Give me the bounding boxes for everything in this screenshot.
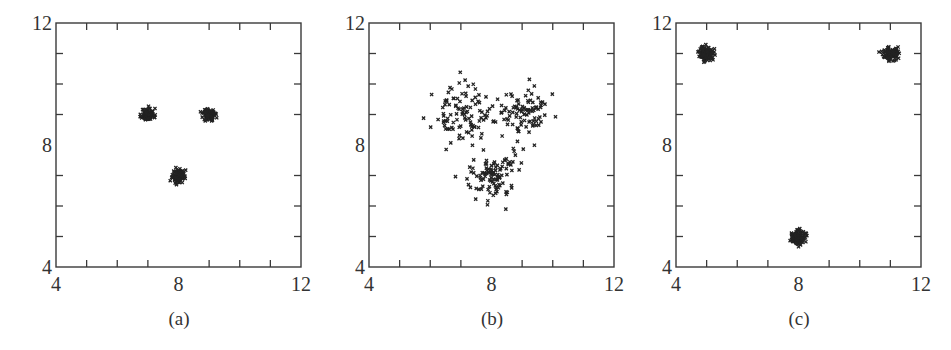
y-tick-label: 4 [42,256,52,278]
x-tick-label: 4 [364,273,374,295]
caption-a: (a) [139,308,219,330]
y-tick-label: 12 [345,12,365,34]
x-tick-label: 8 [174,273,184,295]
caption-c: (c) [759,308,839,330]
caption-b: (b) [452,308,532,330]
scatter-panel-a: 48124812 (a) [0,0,310,350]
scatter-points [139,105,219,187]
y-tick-label: 4 [355,256,365,278]
y-tick-label: 12 [32,12,52,34]
scatter-points [696,43,900,248]
y-tick-label: 12 [652,12,672,34]
x-tick-label: 8 [794,273,804,295]
plot-c: 48124812 [620,0,940,300]
scatter-points [422,71,557,211]
plot-frame [369,23,614,267]
x-tick-label: 4 [671,273,681,295]
plot-b: 48124812 [313,0,623,300]
x-tick-label: 12 [911,273,931,295]
y-tick-label: 8 [355,134,365,156]
y-tick-label: 8 [662,134,672,156]
y-tick-label: 8 [42,134,52,156]
y-tick-label: 4 [662,256,672,278]
x-tick-label: 12 [291,273,311,295]
plot-a: 48124812 [0,0,310,300]
scatter-panel-c: 48124812 (c) [620,0,930,350]
plot-frame [56,23,301,267]
x-tick-label: 4 [51,273,61,295]
scatter-panel-b: 48124812 (b) [313,0,623,350]
x-tick-label: 8 [487,273,497,295]
